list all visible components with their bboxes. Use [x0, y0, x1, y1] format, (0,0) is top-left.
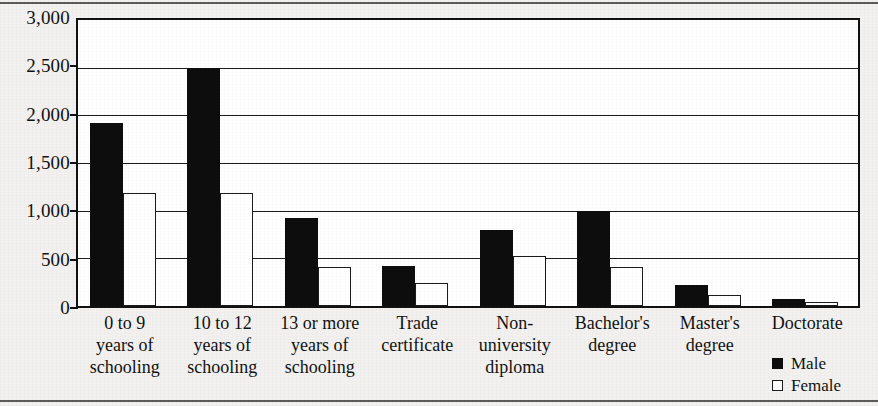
legend-label-female: Female	[791, 377, 841, 394]
y-tick-mark	[70, 114, 78, 116]
bar-male	[90, 123, 123, 306]
x-category-label-line: Non-	[466, 312, 564, 334]
x-category-label-line: 0 to 9	[76, 312, 174, 334]
y-tick-mark	[70, 65, 78, 67]
legend-item-male: Male	[772, 352, 841, 374]
bar-female	[318, 267, 351, 306]
bar-male	[675, 285, 708, 306]
bar-group	[273, 20, 371, 306]
x-axis: 0 to 9years ofschooling10 to 12years ofs…	[76, 312, 860, 394]
x-category-label-line: Trade	[369, 312, 467, 334]
x-category-label-line: certificate	[369, 334, 467, 356]
bar-female	[220, 193, 253, 306]
x-category-label-line: Bachelor's	[564, 312, 662, 334]
legend-label-male: Male	[791, 355, 826, 372]
y-tick-label: 1,500	[2, 153, 70, 172]
x-category-label-line: Master's	[661, 312, 759, 334]
y-tick-mark	[70, 259, 78, 261]
bar-male	[480, 230, 513, 306]
bars-layer	[78, 20, 858, 306]
bar-group	[663, 20, 761, 306]
bar-group	[566, 20, 664, 306]
x-category-label: 13 or moreyears ofschooling	[271, 312, 369, 378]
bar-group	[761, 20, 859, 306]
x-category-label: 10 to 12years ofschooling	[174, 312, 272, 378]
x-category-label: Doctorate	[759, 312, 857, 334]
x-category-label: Master'sdegree	[661, 312, 759, 356]
filled-square-icon	[772, 358, 783, 369]
bar-group	[176, 20, 274, 306]
y-tick-label: 3,000	[2, 8, 70, 27]
bar-female	[708, 295, 741, 306]
x-category-label-line: years of	[174, 334, 272, 356]
x-category-label: Bachelor'sdegree	[564, 312, 662, 356]
x-category-label-line: Doctorate	[759, 312, 857, 334]
x-category-label-line: diploma	[466, 356, 564, 378]
x-category-label-line: schooling	[174, 356, 272, 378]
x-category-label: Tradecertificate	[369, 312, 467, 356]
x-category-label-line: schooling	[271, 356, 369, 378]
y-tick-label: 2,000	[2, 105, 70, 124]
bar-male	[382, 266, 415, 306]
bar-chart-figure: 3,0002,5002,0001,5001,0005000 0 to 9year…	[0, 0, 878, 406]
bar-female	[123, 193, 156, 306]
bar-male	[772, 299, 805, 306]
bar-group	[371, 20, 469, 306]
y-tick-mark	[70, 162, 78, 164]
x-category-label-line: degree	[661, 334, 759, 356]
y-tick-mark	[70, 210, 78, 212]
legend-item-female: Female	[772, 374, 841, 396]
y-tick-label: 1,000	[2, 201, 70, 220]
y-tick-label: 2,500	[2, 56, 70, 75]
bar-group	[468, 20, 566, 306]
bar-female	[415, 283, 448, 306]
bar-female	[805, 302, 838, 306]
bar-male	[187, 68, 220, 306]
x-category-label-line: 13 or more	[271, 312, 369, 334]
open-square-icon	[772, 380, 783, 391]
bar-female	[610, 267, 643, 306]
y-tick-mark	[70, 307, 78, 309]
x-category-label-line: degree	[564, 334, 662, 356]
legend: Male Female	[772, 352, 841, 396]
x-category-label-line: 10 to 12	[174, 312, 272, 334]
bar-group	[78, 20, 176, 306]
y-axis: 3,0002,5002,0001,5001,0005000	[0, 0, 70, 326]
bar-male	[577, 211, 610, 306]
x-category-label: 0 to 9years ofschooling	[76, 312, 174, 378]
y-tick-label: 0	[2, 298, 70, 317]
bar-female	[513, 256, 546, 306]
bar-male	[285, 218, 318, 306]
x-category-label-line: university	[466, 334, 564, 356]
x-category-label: Non-universitydiploma	[466, 312, 564, 378]
sheet-rule-bottom	[0, 400, 878, 402]
x-category-label-line: years of	[271, 334, 369, 356]
y-tick-label: 500	[2, 250, 70, 269]
x-category-label-line: schooling	[76, 356, 174, 378]
sheet-rule-top	[0, 2, 878, 4]
x-category-label-line: years of	[76, 334, 174, 356]
